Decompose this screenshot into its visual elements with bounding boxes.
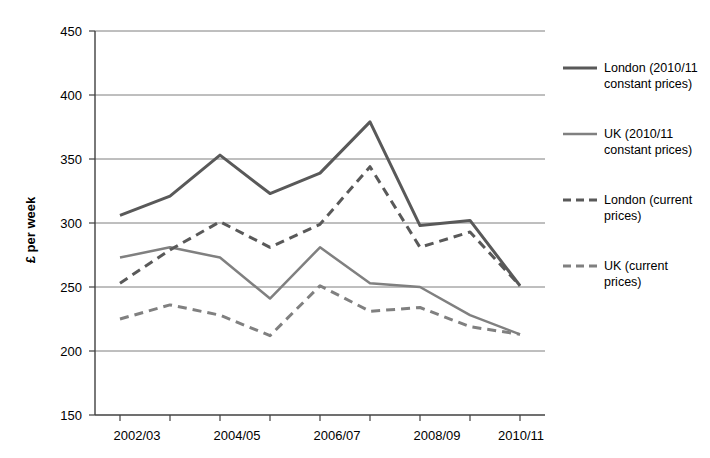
legend-label-london-current-line1: London (current bbox=[604, 193, 693, 207]
y-tick-label: 300 bbox=[60, 216, 82, 231]
y-tick-label: 250 bbox=[60, 280, 82, 295]
legend-label-uk-current-line2: prices) bbox=[604, 275, 642, 289]
y-tick-label: 150 bbox=[60, 408, 82, 423]
series-line-london-constant bbox=[120, 122, 520, 286]
x-tick-label: 2010/11 bbox=[498, 428, 544, 443]
x-tick-label: 2008/09 bbox=[414, 428, 461, 443]
y-tick-label: 200 bbox=[60, 344, 82, 359]
x-tick-label: 2006/07 bbox=[314, 428, 361, 443]
x-tick-label: 2004/05 bbox=[214, 428, 261, 443]
line-chart-svg: 450 400 350 300 250 200 150 2002/03 2004… bbox=[0, 0, 710, 458]
legend-label-london-constant-line2: constant prices) bbox=[604, 77, 692, 91]
x-tick-label: 2002/03 bbox=[114, 428, 161, 443]
legend: London (2010/11 constant prices) UK (201… bbox=[563, 61, 698, 289]
y-tick-label: 400 bbox=[60, 88, 82, 103]
legend-label-london-current-line2: prices) bbox=[604, 209, 642, 223]
chart-container: 450 400 350 300 250 200 150 2002/03 2004… bbox=[0, 0, 710, 458]
legend-label-london-constant-line1: London (2010/11 bbox=[604, 61, 698, 75]
y-axis-tick-labels: 450 400 350 300 250 200 150 bbox=[60, 24, 82, 423]
legend-label-uk-constant-line2: constant prices) bbox=[604, 143, 692, 157]
y-axis-title: £ per week bbox=[23, 196, 38, 263]
series-lines bbox=[120, 122, 520, 336]
series-line-london-current bbox=[120, 167, 520, 286]
x-axis-tick-labels: 2002/03 2004/05 2006/07 2008/09 2010/11 bbox=[114, 428, 545, 443]
legend-label-uk-current-line1: UK (current bbox=[604, 259, 668, 273]
y-tick-label: 450 bbox=[60, 24, 82, 39]
y-tick-label: 350 bbox=[60, 152, 82, 167]
gridlines bbox=[95, 31, 545, 351]
legend-label-uk-constant-line1: UK (2010/11 bbox=[604, 127, 673, 141]
